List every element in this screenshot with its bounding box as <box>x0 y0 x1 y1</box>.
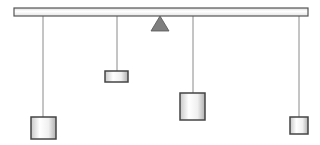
hanging-rods <box>43 16 299 117</box>
weight-3 <box>180 93 205 120</box>
balance-diagram <box>0 0 320 145</box>
weights <box>31 71 308 139</box>
fulcrum-triangle <box>151 16 169 31</box>
weight-4 <box>290 117 308 134</box>
balance-beam <box>14 8 308 16</box>
weight-1 <box>31 117 56 139</box>
weight-2 <box>105 71 128 82</box>
